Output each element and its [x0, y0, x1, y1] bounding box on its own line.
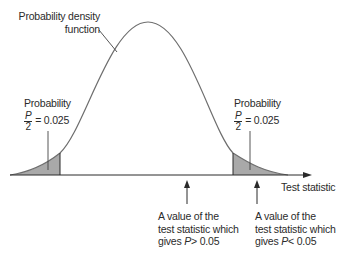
right-annotation: A value of the test statistic which give…: [255, 210, 336, 248]
center-annotation-line2: test statistic which: [158, 223, 239, 236]
right-frac-den: 2: [234, 122, 242, 132]
center-annotation: A value of the test statistic which give…: [158, 210, 239, 248]
right-up-arrow-icon: [254, 180, 260, 188]
left-tail-shade: [10, 153, 60, 175]
right-gives: gives: [255, 235, 281, 247]
left-tail-fraction: P 2: [24, 111, 32, 132]
left-tail-label: Probability P 2 = 0.025: [24, 97, 71, 132]
center-up-arrow-icon: [184, 180, 190, 188]
right-tail-value-row: P 2 = 0.025: [234, 111, 281, 132]
x-axis-label: Test statistic: [281, 181, 335, 194]
left-frac-num: P: [24, 111, 32, 122]
right-annotation-line2: test statistic which: [255, 223, 336, 236]
right-annotation-line3: gives P< 0.05: [255, 235, 336, 248]
center-annotation-line3: gives P> 0.05: [158, 235, 239, 248]
curve-label-line2: function: [14, 23, 100, 36]
right-tail-shade: [233, 153, 288, 175]
right-tail-title: Probability: [234, 97, 281, 110]
left-tail-value-row: P 2 = 0.025: [24, 111, 71, 132]
right-tail-value: = 0.025: [245, 114, 279, 126]
center-p-cond: > 0.05: [191, 235, 219, 247]
right-frac-num: P: [234, 111, 242, 122]
curve-label-leader: [99, 30, 117, 52]
left-frac-den: 2: [24, 122, 32, 132]
right-tail-fraction: P 2: [234, 111, 242, 132]
left-tail-value: = 0.025: [35, 114, 69, 126]
curve-label-line1: Probability density: [14, 10, 100, 23]
left-tail-title: Probability: [24, 97, 71, 110]
center-gives: gives: [158, 235, 184, 247]
curve-label: Probability density function: [14, 10, 100, 35]
x-axis-arrowhead-icon: [303, 172, 312, 178]
center-annotation-line1: A value of the: [158, 210, 239, 223]
right-tail-label: Probability P 2 = 0.025: [234, 97, 281, 132]
right-p-cond: < 0.05: [288, 235, 316, 247]
right-annotation-line1: A value of the: [255, 210, 336, 223]
